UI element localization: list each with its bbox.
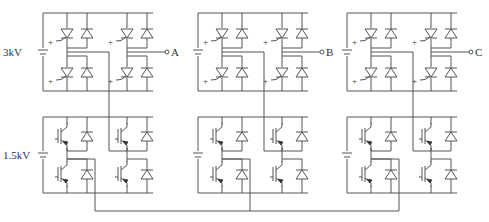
igbt-arrow — [427, 179, 432, 183]
battery-icon — [38, 151, 48, 159]
igbt-arrow — [427, 141, 432, 145]
battery-icon — [193, 151, 203, 159]
output-terminal — [165, 50, 169, 54]
diode-triangle — [141, 170, 153, 179]
thyristor-icon: + — [263, 29, 288, 47]
diode-triangle — [445, 68, 457, 77]
battery-gap — [193, 151, 203, 159]
bottom-voltage-label: 1.5kV — [3, 149, 30, 161]
igbt-arrow — [218, 141, 223, 145]
igbt-icon — [115, 161, 128, 187]
thyristor-icon: + — [108, 29, 133, 47]
phase-module-c: ++++C — [342, 13, 482, 211]
igbt-icon — [210, 161, 223, 187]
thyristor-triangle — [365, 29, 377, 38]
thyristor-icon: + — [352, 68, 377, 86]
diode-icon — [81, 29, 93, 38]
diode-triangle — [296, 170, 308, 179]
diode-icon — [81, 68, 93, 77]
diode-icon — [296, 132, 308, 141]
diode-triangle — [296, 68, 308, 77]
battery-icon — [38, 48, 48, 56]
thyristor-triangle — [121, 68, 133, 77]
battery-gap — [342, 48, 352, 56]
diode-triangle — [385, 170, 397, 179]
gate-plus-label: + — [48, 76, 53, 86]
gate-plus-label: + — [412, 37, 417, 47]
diode-icon — [296, 170, 308, 179]
igbt-arrow — [218, 179, 223, 183]
igbt-arrow — [63, 141, 68, 145]
diode-icon — [445, 29, 457, 38]
gate-plus-label: + — [108, 37, 113, 47]
diode-icon — [81, 170, 93, 179]
circuit-diagram: ++++A++++B++++C3kV1.5kV — [0, 0, 489, 222]
igbt-icon — [55, 123, 68, 149]
igbt-collector — [61, 123, 67, 132]
phase-module-a: ++++A — [38, 13, 179, 211]
thyristor-icon: + — [203, 68, 228, 86]
diode-triangle — [445, 170, 457, 179]
igbt-collector — [61, 161, 67, 170]
igbt-collector — [121, 123, 127, 132]
igbt-collector — [276, 123, 282, 132]
thyristor-triangle — [276, 29, 288, 38]
igbt-icon — [270, 161, 283, 187]
phase-module-b: ++++B — [193, 13, 333, 211]
diode-triangle — [236, 68, 248, 77]
igbt-icon — [115, 123, 128, 149]
diode-triangle — [385, 68, 397, 77]
diode-triangle — [296, 29, 308, 38]
igbt-icon — [419, 161, 432, 187]
output-terminal — [469, 50, 473, 54]
diode-icon — [385, 29, 397, 38]
battery-gap — [38, 48, 48, 56]
igbt-collector — [276, 161, 282, 170]
gate-plus-label: + — [352, 76, 357, 86]
igbt-arrow — [63, 179, 68, 183]
igbt-arrow — [367, 141, 372, 145]
diode-triangle — [141, 68, 153, 77]
diode-triangle — [81, 170, 93, 179]
diode-triangle — [236, 132, 248, 141]
thyristor-triangle — [425, 68, 437, 77]
igbt-icon — [359, 161, 372, 187]
battery-icon — [342, 151, 352, 159]
diode-triangle — [445, 132, 457, 141]
igbt-collector — [216, 161, 222, 170]
battery-icon — [342, 48, 352, 56]
thyristor-triangle — [61, 29, 73, 38]
top-voltage-label: 3kV — [3, 46, 22, 58]
thyristor-icon: + — [203, 29, 228, 47]
diode-triangle — [385, 29, 397, 38]
diode-icon — [296, 68, 308, 77]
thyristor-icon: + — [48, 29, 73, 47]
igbt-icon — [210, 123, 223, 149]
diode-icon — [385, 170, 397, 179]
diode-icon — [141, 29, 153, 38]
gate-plus-label: + — [203, 37, 208, 47]
thyristor-triangle — [121, 29, 133, 38]
igbt-icon — [270, 123, 283, 149]
igbt-arrow — [123, 141, 128, 145]
thyristor-icon: + — [108, 68, 133, 86]
thyristor-triangle — [276, 68, 288, 77]
thyristor-triangle — [216, 68, 228, 77]
diode-icon — [385, 68, 397, 77]
thyristor-triangle — [61, 68, 73, 77]
circuit-svg: ++++A++++B++++C3kV1.5kV — [0, 0, 489, 222]
thyristor-icon: + — [412, 68, 437, 86]
thyristor-triangle — [216, 29, 228, 38]
diode-icon — [141, 132, 153, 141]
battery-gap — [38, 151, 48, 159]
thyristor-triangle — [365, 68, 377, 77]
diode-icon — [141, 68, 153, 77]
thyristor-icon: + — [263, 68, 288, 86]
diode-triangle — [236, 29, 248, 38]
diode-icon — [445, 132, 457, 141]
diode-triangle — [81, 68, 93, 77]
igbt-collector — [425, 161, 431, 170]
diode-triangle — [81, 29, 93, 38]
gate-plus-label: + — [263, 37, 268, 47]
igbt-collector — [425, 123, 431, 132]
